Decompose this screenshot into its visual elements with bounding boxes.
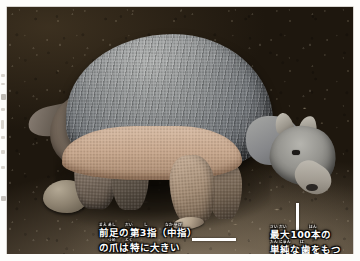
margin-bleed-mark [1, 108, 5, 111]
leader-line-claw [192, 238, 236, 241]
margin-bleed-mark [1, 196, 6, 201]
flank-band [62, 126, 242, 180]
margin-bleed-mark [1, 136, 5, 139]
caption-teeth-line-1: 最大100本の [270, 229, 341, 240]
caption-claw-line-2: の爪は特に大きい [99, 242, 198, 253]
margin-bleed-mark [1, 120, 4, 129]
margin-bleed-mark [1, 166, 5, 169]
nose [306, 184, 318, 191]
book-page: まえあし だい し なかゆび 前足の第3指（中指） つめ とく の爪は特に大きい… [0, 0, 360, 261]
eye [292, 150, 300, 155]
margin-bleed-mark [1, 94, 6, 100]
margin-bleed-mark [1, 74, 5, 77]
fore-leg-near [167, 154, 217, 226]
caption-claw: まえあし だい し なかゆび 前足の第3指（中指） つめ とく の爪は特に大きい [99, 223, 198, 253]
armadillo-photograph: まえあし だい し なかゆび 前足の第3指（中指） つめ とく の爪は特に大きい… [7, 7, 353, 254]
giant-armadillo [7, 7, 353, 254]
margin-bleed-mark [1, 150, 5, 154]
caption-teeth: さいだい ほん 最大100本の たんじゅん は 単純な歯をもつ [270, 225, 341, 254]
caption-claw-ruby-1: まえあし だい し なかゆび [99, 223, 198, 227]
caption-claw-line-1: 前足の第3指（中指） [99, 227, 198, 238]
page-bottom-margin [0, 254, 360, 261]
caption-teeth-ruby-1: さいだい ほん [270, 225, 341, 229]
caption-teeth-line-2: 単純な歯をもつ [270, 244, 341, 254]
caption-claw-ruby-2: つめ とく [99, 238, 198, 242]
margin-bleed-mark [1, 83, 5, 85]
caption-teeth-ruby-2: たんじゅん は [270, 240, 341, 244]
